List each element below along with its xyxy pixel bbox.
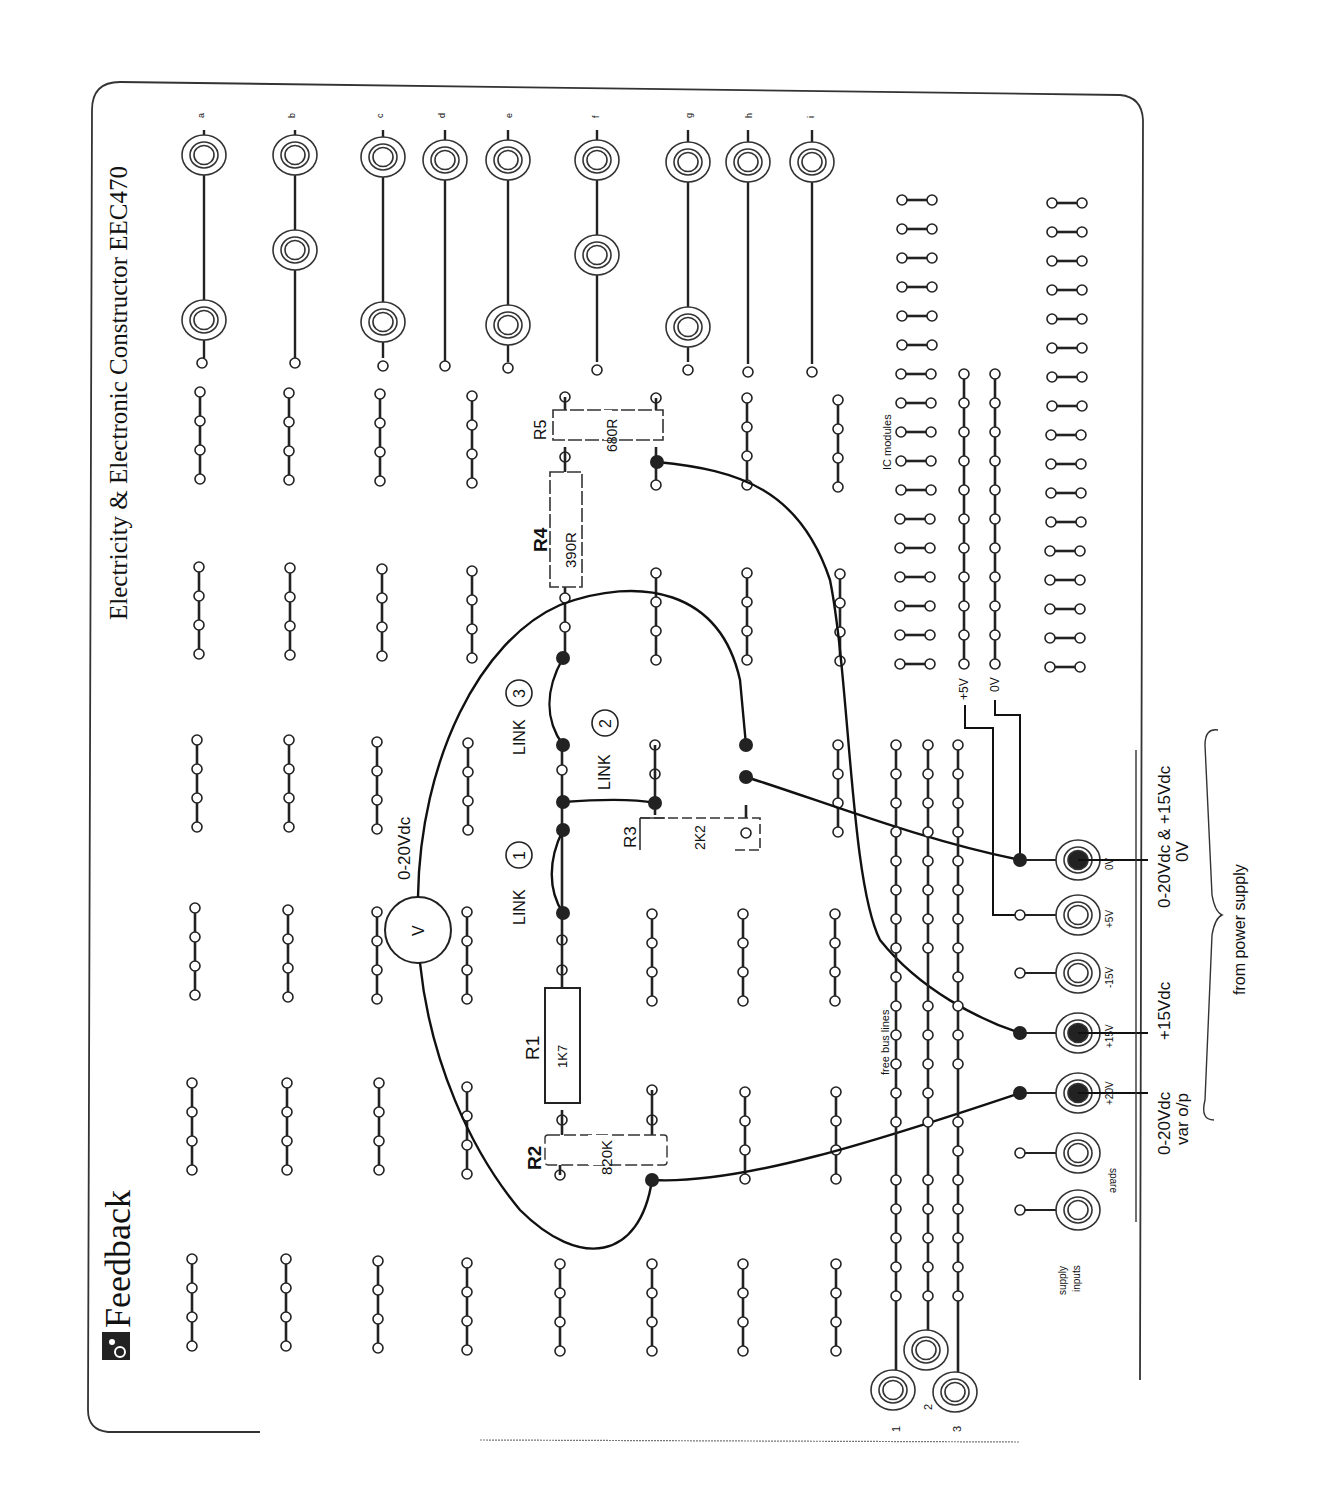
link-3-label: LINK — [511, 719, 528, 755]
rail-label-h: h — [744, 113, 754, 118]
ic-modules-label: IC modules — [881, 414, 893, 470]
link-1-label: LINK — [511, 889, 528, 925]
resistor-r1: R1 1K7 — [522, 988, 580, 1103]
socket-minus15v — [1056, 953, 1100, 993]
ic-pairs-left — [895, 195, 937, 669]
ic-pairs-right — [1045, 198, 1087, 672]
annot-var-line2: var o/p — [1173, 1093, 1192, 1145]
socket-label-plus5v: +5V — [1104, 910, 1115, 928]
constructor-board-diagram: Electricity & Electronic Constructor EEC… — [0, 0, 1320, 1502]
annot-common-line2: 0V — [1173, 841, 1192, 862]
link-2-number: 2 — [597, 719, 614, 728]
ic-modules: IC modules +5V 0V — [881, 195, 1087, 700]
link-2-label: LINK — [596, 754, 613, 790]
socket-spare — [1056, 1133, 1100, 1173]
brand-name: Feedback — [98, 1190, 138, 1328]
rail-labels: a b c d e f g h i — [196, 113, 816, 118]
bus-socket-3 — [933, 1372, 977, 1412]
rail-label-i: i — [806, 116, 816, 118]
resistor-r2: R2 820K — [524, 1135, 667, 1175]
r2-name: R2 — [524, 1146, 545, 1170]
plus5v-rail-label: +5V — [957, 678, 971, 700]
terminal-strips — [187, 387, 845, 1356]
annot-var-line1: 0-20Vdc — [1155, 1091, 1174, 1155]
rail-label-c: c — [375, 113, 385, 118]
resistor-r3: R3 2K2 — [621, 818, 760, 850]
socket-label-spare: spare — [1108, 1168, 1119, 1193]
socket-plus5v — [1056, 895, 1100, 935]
r2-value: 820K — [598, 1140, 615, 1175]
r4-name: R4 — [530, 527, 551, 552]
socket-label-minus15v: -15V — [1104, 967, 1115, 988]
link-3-number: 3 — [511, 689, 528, 698]
bus-number-3: 3 — [951, 1426, 963, 1432]
rail-label-d: d — [437, 113, 447, 118]
rail-label-e: e — [504, 113, 514, 118]
bus-number-2: 2 — [922, 1404, 934, 1410]
voltmeter-symbol: V — [410, 925, 427, 936]
resistor-r5: R5 680R — [532, 410, 663, 452]
board-outline — [88, 82, 1143, 1432]
bus-socket-2 — [904, 1330, 948, 1370]
bus-label: free bus lines — [879, 1009, 891, 1075]
socket-spare-2 — [1056, 1190, 1100, 1230]
resistor-r4: R4 390R — [530, 472, 582, 587]
rail-label-g: g — [684, 113, 694, 118]
supply-inputs: spare +20V +15V -15V +5V 0V supply input… — [1015, 750, 1148, 1295]
supply-annotations: 0-20Vdc var o/p +15Vdc 0-20Vdc & +15Vdc … — [1155, 730, 1248, 1155]
bus-socket-1 — [871, 1370, 915, 1410]
socket-label-plus15v: +15V — [1104, 1024, 1115, 1048]
r5-value: 680R — [604, 419, 620, 452]
r3-name: R3 — [621, 826, 640, 848]
r4-value: 390R — [562, 532, 579, 568]
voltmeter-label: 0-20Vdc — [395, 816, 414, 880]
annot-plus15vdc: +15Vdc — [1155, 981, 1174, 1040]
socket-label-plus20v: +20V — [1104, 1081, 1115, 1105]
free-bus-lines: free bus lines 1 2 3 — [871, 740, 977, 1432]
r1-name: R1 — [522, 1036, 543, 1060]
brace-label: from power supply — [1231, 864, 1248, 995]
brace — [1204, 730, 1222, 1120]
zero-v-rail-label: 0V — [988, 677, 1002, 692]
bus-number-1: 1 — [890, 1426, 902, 1432]
socket-rails — [182, 130, 834, 377]
brand: Feedback — [98, 1190, 138, 1360]
board-title: Electricity & Electronic Constructor EEC… — [105, 166, 132, 620]
annot-common-line1: 0-20Vdc & +15Vdc — [1155, 765, 1174, 908]
r5-name: R5 — [532, 419, 549, 440]
rail-label-f: f — [591, 115, 601, 118]
r3-value: 2K2 — [692, 825, 708, 850]
link-1-number: 1 — [511, 851, 528, 860]
junction-dots — [556, 455, 1027, 1187]
supply-label-line1: supply — [1057, 1266, 1068, 1295]
supply-label-line2: inputs — [1071, 1265, 1082, 1292]
socket-label-0v: 0V — [1104, 857, 1115, 870]
r1-value: 1K7 — [555, 1045, 570, 1068]
rail-label-b: b — [287, 113, 297, 118]
rail-label-a: a — [196, 113, 206, 118]
